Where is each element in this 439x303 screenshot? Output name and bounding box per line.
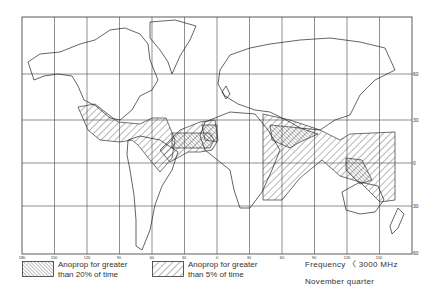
- legend-label-20pct: Anoprop for greater than 20% of time: [58, 260, 127, 280]
- lon-tick: 150: [51, 255, 58, 260]
- legend-label-5pct: Anoprop for greater than 5% of time: [188, 260, 257, 280]
- season-note: November quarter: [305, 277, 374, 287]
- world-map: [0, 0, 439, 303]
- lat-label: 30: [413, 203, 419, 209]
- lat-label: 0: [413, 160, 416, 166]
- lat-label: 60: [413, 71, 419, 77]
- lat-label: 30: [413, 117, 419, 123]
- lon-tick: 60: [280, 255, 284, 260]
- sparse-hatch-swatch: [152, 261, 184, 277]
- lon-tick: 30: [182, 255, 186, 260]
- lon-tick: 180: [19, 255, 26, 260]
- lat-label: 60: [413, 250, 419, 256]
- dense-hatch-swatch: [22, 261, 54, 277]
- frequency-note: Frequency 〈 3000 MHz: [305, 260, 398, 270]
- continent-outlines: [28, 20, 404, 250]
- lon-tick: 60: [150, 255, 154, 260]
